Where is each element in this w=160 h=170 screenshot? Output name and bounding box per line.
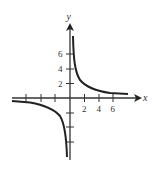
curve-branch-right [73,36,128,94]
y-tick-label-4: 4 [58,64,63,74]
hyperbola-graph: 2 4 6 2 4 6 x y [0,0,160,170]
x-tick-label-2: 2 [82,104,87,114]
y-tick-label-6: 6 [58,49,63,59]
y-tick-label-2: 2 [58,79,63,89]
x-tick-label-6: 6 [111,104,116,114]
x-tick-label-4: 4 [97,104,102,114]
curve-branch-left [12,101,67,157]
y-axis-label: y [66,11,72,22]
x-axis-label: x [142,92,148,103]
